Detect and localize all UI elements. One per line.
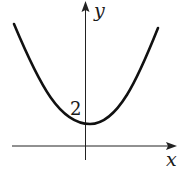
plot-area <box>0 0 178 169</box>
x-axis-label: x <box>166 150 177 169</box>
y-axis-label: y <box>94 1 105 20</box>
intercept-label: 2 <box>70 100 81 118</box>
chart: y x 2 <box>0 0 178 169</box>
